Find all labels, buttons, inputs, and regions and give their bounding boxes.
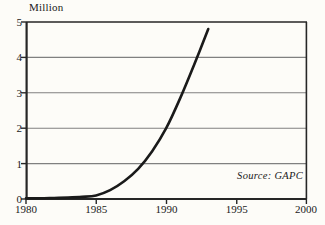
y-axis-tick-label: 1: [2, 158, 22, 170]
line-chart: Million: [0, 0, 325, 225]
plot-area: [0, 0, 325, 225]
x-axis-tick-label: 1985: [73, 203, 119, 215]
x-axis-tick-label: 2000: [283, 203, 325, 215]
gridlines: [26, 57, 307, 163]
x-axis-tick-label: 1995: [214, 203, 260, 215]
source-annotation: Source: GAPC: [237, 170, 303, 181]
y-axis-tick-label: 3: [2, 87, 22, 99]
y-axis-tick-label: 5: [2, 16, 22, 28]
y-axis-tick-label: 4: [2, 51, 22, 63]
y-axis-tick-label: 2: [2, 122, 22, 134]
y-axis-ticks: [21, 22, 26, 199]
x-axis-tick-label: 1990: [144, 203, 190, 215]
x-axis-tick-label: 1980: [3, 203, 49, 215]
data-series-line: [26, 29, 208, 198]
